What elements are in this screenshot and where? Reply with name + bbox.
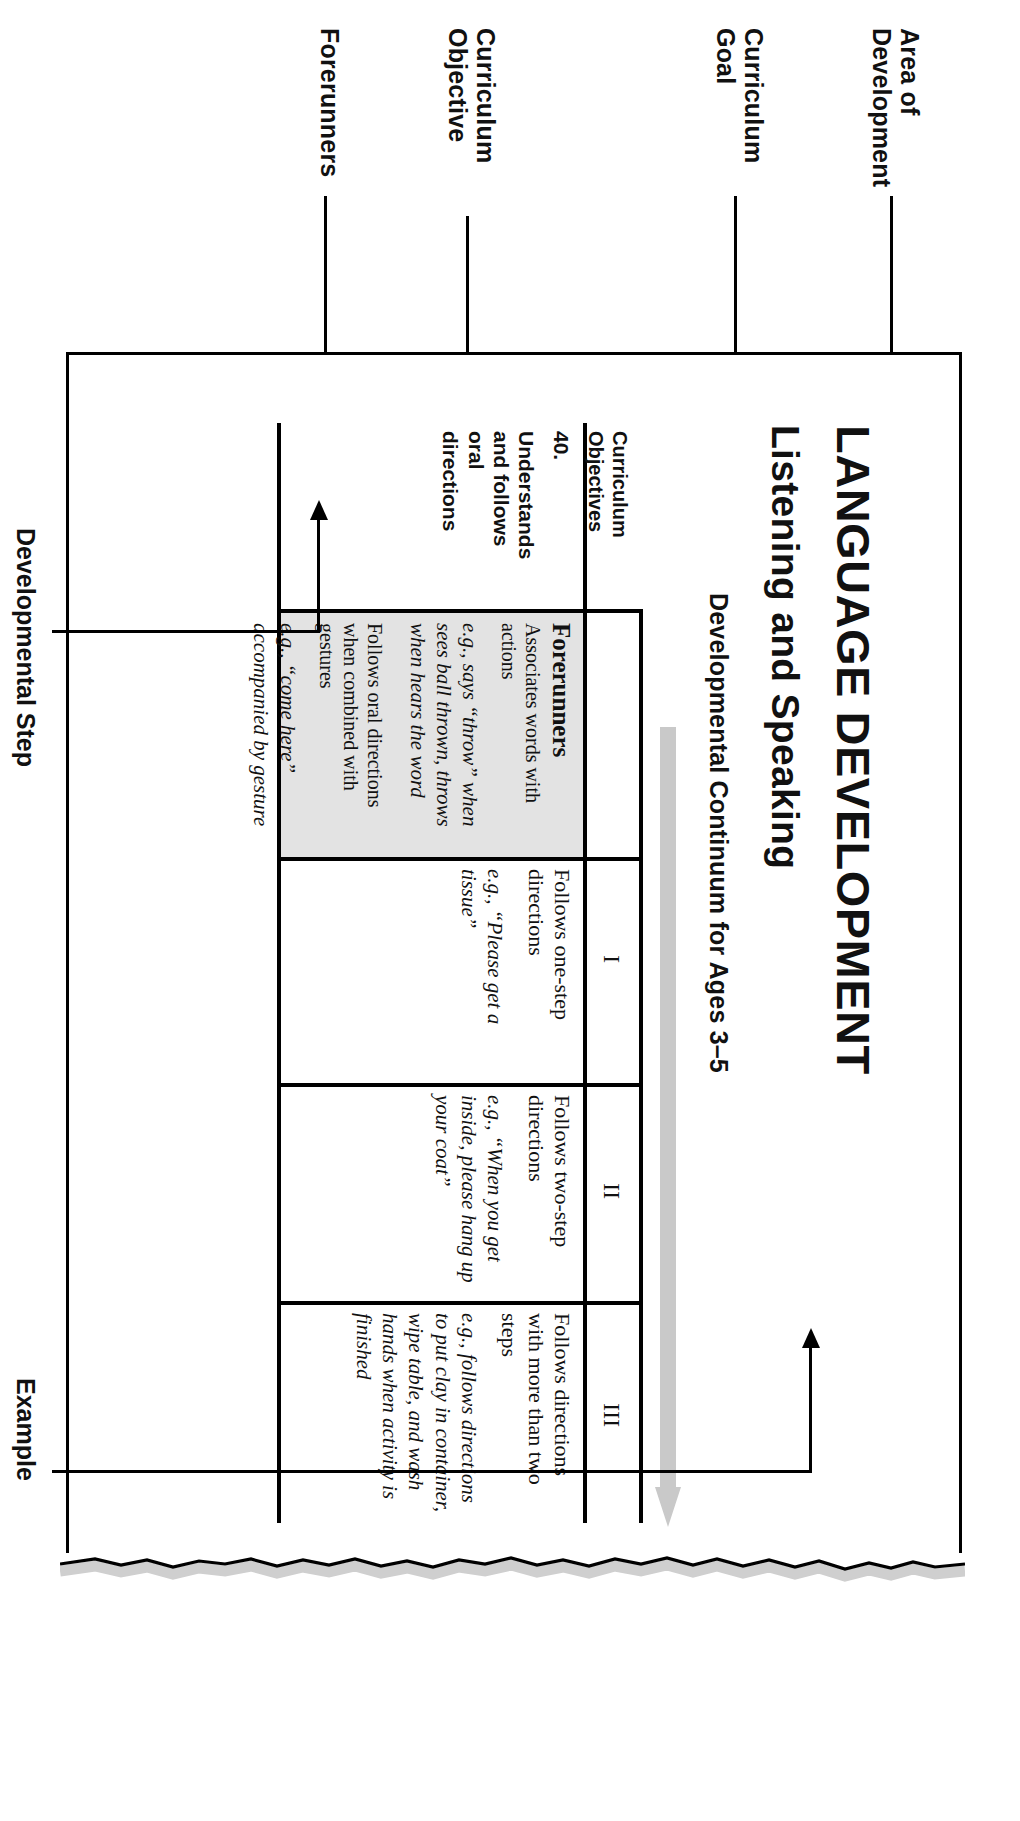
step-ii-statement: Follows two-step directions bbox=[522, 1095, 575, 1287]
page-title-area-of-development: LANGUAGE DEVELOPMENT bbox=[826, 425, 881, 1075]
table-rule-left-of-forerunners bbox=[281, 609, 643, 613]
step-cell-iii: Follows directions with more than two st… bbox=[351, 1313, 575, 1513]
continuum-title: Developmental Continuum for Ages 3–5 bbox=[704, 593, 733, 1073]
annotation-forerunners: Forerunners bbox=[316, 28, 344, 177]
progression-arrow-icon bbox=[655, 727, 681, 1527]
leader-line-developmental-step-horizontal bbox=[317, 520, 320, 633]
leader-arrow-developmental-step bbox=[310, 500, 328, 520]
annotation-area-of-development: Area of Development bbox=[868, 28, 924, 187]
forerunners-item-1-statement: Associates words with actions bbox=[498, 623, 546, 847]
forerunners-item-2-example: e.g., “come here” accompanied by gesture bbox=[248, 623, 301, 847]
column-header-curriculum-objectives: Curriculum Objectives bbox=[584, 431, 631, 538]
annotation-curriculum-objective: Curriculum Objective bbox=[444, 28, 500, 163]
leader-line-developmental-step-vertical bbox=[52, 630, 320, 633]
step-iii-statement: Follows directions with more than two st… bbox=[496, 1313, 575, 1513]
objective-number: 40. bbox=[549, 431, 573, 460]
step-header-i: I bbox=[598, 955, 625, 963]
page-subtitle-curriculum-goal: Listening and Speaking bbox=[763, 425, 807, 869]
annotation-developmental-step: Developmental Step bbox=[11, 528, 40, 767]
annotation-example: Example bbox=[11, 1378, 40, 1481]
torn-paper-edge-icon bbox=[60, 1550, 965, 1584]
step-cell-i: Follows one-step directions e.g., “Pleas… bbox=[456, 869, 575, 1069]
table-rule-top bbox=[639, 609, 643, 1523]
step-cell-ii: Follows two-step directions e.g., “When … bbox=[429, 1095, 575, 1287]
table-rule-bottom bbox=[277, 423, 281, 1523]
forerunners-cell: Forerunners Associates words with action… bbox=[248, 623, 575, 847]
leader-line-example-horizontal bbox=[809, 1348, 812, 1473]
developmental-continuum-table: Curriculum Objectives I II III 40. Under… bbox=[95, 423, 643, 1523]
leader-line-goal bbox=[734, 196, 737, 374]
step-ii-example: e.g., “When you get inside, please hang … bbox=[429, 1095, 508, 1287]
forerunners-title: Forerunners bbox=[548, 623, 576, 847]
objective-text: Understands and follows oral directions bbox=[438, 431, 539, 601]
table-rule-col-1 bbox=[281, 857, 643, 861]
scanned-page: Area of Development Curriculum Goal Curr… bbox=[0, 0, 1020, 1821]
leader-line-area bbox=[890, 196, 893, 374]
step-i-statement: Follows one-step directions bbox=[522, 869, 575, 1069]
annotation-curriculum-goal: Curriculum Goal bbox=[712, 28, 768, 163]
table-rule-col-3 bbox=[281, 1301, 643, 1305]
step-i-example: e.g., “Please get a tissue” bbox=[456, 869, 509, 1069]
step-iii-example: e.g., follows directions to put clay in … bbox=[351, 1313, 482, 1513]
table-rule-under-headers bbox=[583, 423, 587, 1523]
forerunners-item-2-statement: Follows oral directions when combined wi… bbox=[315, 623, 387, 847]
step-header-ii: II bbox=[598, 1183, 625, 1199]
leader-arrow-example bbox=[802, 1328, 820, 1348]
leader-line-example-vertical bbox=[52, 1470, 812, 1473]
page-sheet: LANGUAGE DEVELOPMENT Listening and Speak… bbox=[66, 352, 962, 1553]
forerunners-item-1-example: e.g., says “throw” when sees ball thrown… bbox=[405, 623, 484, 847]
table-rule-col-2 bbox=[281, 1083, 643, 1087]
step-header-iii: III bbox=[598, 1403, 625, 1427]
